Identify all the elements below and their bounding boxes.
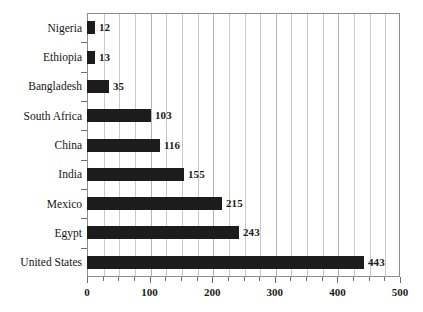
bar-value-label: 12 — [99, 21, 110, 34]
x-axis-tick-labels: 0100200300400500 — [0, 285, 423, 303]
bar — [87, 168, 184, 181]
bar-value-label: 215 — [226, 197, 243, 210]
bar-value-label: 155 — [188, 168, 205, 181]
bars-layer: 121335103116155215243443 — [87, 13, 400, 277]
x-axis-tick-minor — [259, 277, 260, 281]
bar-value-label: 243 — [243, 226, 260, 239]
y-axis-tick — [81, 248, 87, 249]
x-axis-tick-minor — [118, 277, 119, 281]
y-axis-tick — [81, 218, 87, 219]
x-axis-tick-major — [400, 277, 401, 283]
x-axis-tick-label: 100 — [141, 285, 158, 299]
bar-value-label: 103 — [155, 109, 172, 122]
category-label: Nigeria — [0, 21, 82, 35]
x-axis-tick-minor — [322, 277, 323, 281]
bar — [87, 139, 160, 152]
x-axis-tick-major — [337, 277, 338, 283]
x-axis-tick-minor — [244, 277, 245, 281]
bar — [87, 226, 239, 239]
x-axis-tick-label: 500 — [392, 285, 409, 299]
y-axis-tick — [81, 101, 87, 102]
category-label: Ethiopia — [0, 50, 82, 64]
category-label: Egypt — [0, 226, 82, 240]
x-axis-tick-label: 0 — [84, 285, 90, 299]
y-axis-tick — [81, 160, 87, 161]
x-axis-tick-major — [212, 277, 213, 283]
category-axis-labels: NigeriaEthiopiaBangladeshSouth AfricaChi… — [0, 13, 82, 277]
category-label: United States — [0, 255, 82, 269]
category-label: Mexico — [0, 197, 82, 211]
bar-chart: 121335103116155215243443 NigeriaEthiopia… — [0, 0, 423, 312]
bar-value-label: 443 — [368, 256, 385, 269]
y-axis-tick — [81, 189, 87, 190]
x-axis-ticks — [87, 277, 400, 285]
x-axis-tick-label: 400 — [329, 285, 346, 299]
bar — [87, 51, 95, 64]
x-axis-tick-minor — [384, 277, 385, 281]
bar — [87, 256, 364, 269]
bar-value-label: 35 — [113, 80, 124, 93]
bar — [87, 21, 95, 34]
x-axis-tick-minor — [290, 277, 291, 281]
x-axis-tick-major — [150, 277, 151, 283]
category-label: China — [0, 138, 82, 152]
y-axis-tick — [81, 72, 87, 73]
bar — [87, 80, 109, 93]
x-axis-tick-minor — [165, 277, 166, 281]
x-axis-tick-minor — [103, 277, 104, 281]
y-axis-tick — [81, 42, 87, 43]
x-axis-tick-minor — [369, 277, 370, 281]
x-axis-tick-major — [87, 277, 88, 283]
x-axis-tick-major — [275, 277, 276, 283]
category-label: India — [0, 167, 82, 181]
bar-value-label: 116 — [164, 139, 180, 152]
category-label: Bangladesh — [0, 79, 82, 93]
x-axis-tick-minor — [306, 277, 307, 281]
x-axis-tick-label: 300 — [267, 285, 284, 299]
x-axis-tick-label: 200 — [204, 285, 221, 299]
bar — [87, 197, 222, 210]
category-label: South Africa — [0, 109, 82, 123]
x-axis-tick-minor — [353, 277, 354, 281]
x-axis-tick-minor — [228, 277, 229, 281]
bar — [87, 109, 151, 122]
bar-value-label: 13 — [99, 51, 110, 64]
x-axis-tick-minor — [181, 277, 182, 281]
x-axis-tick-minor — [197, 277, 198, 281]
x-axis-tick-minor — [134, 277, 135, 281]
y-axis-tick — [81, 130, 87, 131]
